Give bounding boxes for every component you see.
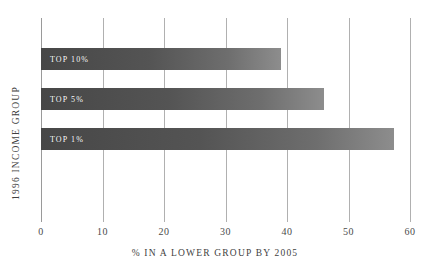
x-tick-label: 0 (26, 226, 56, 237)
x-tick-label: 40 (272, 226, 302, 237)
bar-label: TOP 1% (41, 135, 84, 144)
bar: TOP 1% (41, 128, 394, 150)
bar-label: TOP 5% (41, 95, 84, 104)
x-tick-label: 10 (88, 226, 118, 237)
x-axis-title: % IN A LOWER GROUP BY 2005 (0, 248, 430, 258)
x-tick-label: 50 (334, 226, 364, 237)
bar-label: TOP 10% (41, 55, 89, 64)
bar: TOP 10% (41, 48, 281, 70)
y-axis-title: 1996 INCOME GROUP (11, 73, 21, 213)
bar-chart: (cut off) TOP 10%TOP 5%TOP 1% 0102030405… (0, 0, 430, 268)
gridline (410, 18, 411, 222)
bar: TOP 5% (41, 88, 324, 110)
x-tick-label: 60 (395, 226, 425, 237)
plot-area: TOP 10%TOP 5%TOP 1% (41, 18, 410, 222)
x-tick-label: 20 (149, 226, 179, 237)
x-tick-label: 30 (211, 226, 241, 237)
gridline (349, 18, 350, 222)
gridline (287, 18, 288, 222)
